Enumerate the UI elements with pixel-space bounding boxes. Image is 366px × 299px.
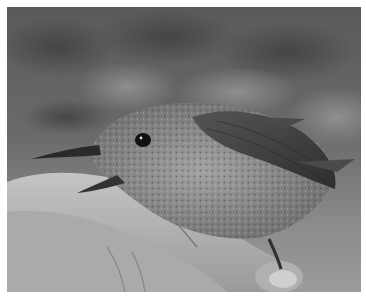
photo: [7, 7, 361, 292]
bird-in-hand-image: [7, 7, 361, 292]
